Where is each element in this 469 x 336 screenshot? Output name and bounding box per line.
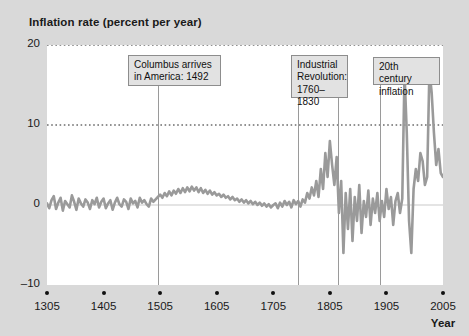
x-tick-dot <box>441 291 445 295</box>
x-tick-label: 2005 <box>421 300 465 312</box>
x-axis-title: Year <box>421 317 465 329</box>
y-tick-label: –10 <box>6 277 40 289</box>
x-tick-label: 1805 <box>308 300 352 312</box>
annotation-columbus: Columbus arrives in America: 1492 <box>128 55 221 86</box>
x-tick-dot <box>328 291 332 295</box>
x-tick-dot <box>271 291 275 295</box>
annotation-twentieth-century-inflation: 20th century inflation <box>373 57 440 85</box>
annotation-leader-line <box>380 85 381 285</box>
y-tick-label: 20 <box>6 37 40 49</box>
x-tick-label: 1505 <box>138 300 182 312</box>
x-tick-dot <box>384 291 388 295</box>
x-tick-label: 1905 <box>364 300 408 312</box>
annotation-leader-line <box>298 98 299 285</box>
x-tick-dot <box>45 291 49 295</box>
y-tick-label: 0 <box>6 197 40 209</box>
x-tick-dot <box>102 291 106 295</box>
x-tick-label: 1405 <box>82 300 126 312</box>
figure-container: Inflation rate (percent per year) –10010… <box>0 0 469 336</box>
x-tick-dot <box>158 291 162 295</box>
x-tick-label: 1605 <box>195 300 239 312</box>
x-tick-label: 1305 <box>25 300 69 312</box>
page-title: Inflation rate (percent per year) <box>29 16 202 28</box>
y-tick-label: 10 <box>6 117 40 129</box>
annotation-leader-line <box>338 98 339 285</box>
x-tick-dot <box>215 291 219 295</box>
x-tick-label: 1705 <box>251 300 295 312</box>
annotation-industrial-revolution: Industrial Revolution: 1760–1830 <box>291 55 348 98</box>
annotation-leader-line <box>158 86 159 285</box>
